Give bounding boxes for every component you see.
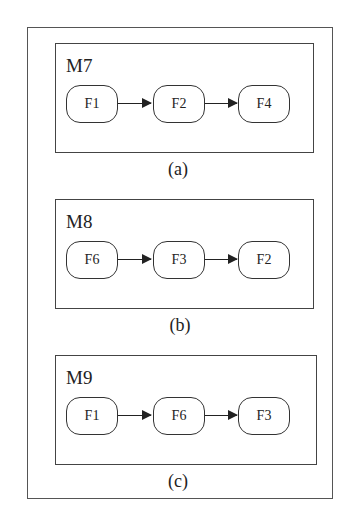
node-f6: F6: [153, 397, 205, 435]
arrow-icon: [205, 415, 237, 416]
arrow-icon: [118, 415, 151, 416]
panel-title: M9: [66, 368, 92, 388]
caption-c: (c): [158, 471, 198, 491]
caption-b: (b): [160, 315, 200, 335]
arrow-icon: [205, 259, 237, 260]
node-f1: F1: [66, 397, 118, 435]
arrow-icon: [118, 103, 151, 104]
panel-title: M7: [66, 56, 92, 76]
caption-a: (a): [158, 159, 198, 179]
node-f1: F1: [66, 85, 118, 123]
node-f3: F3: [238, 397, 290, 435]
node-f3: F3: [153, 241, 205, 279]
arrow-icon: [205, 103, 237, 104]
arrow-icon: [118, 259, 151, 260]
panel-m7: M7 F1 F2 F4: [55, 43, 314, 153]
panel-m8: M8 F6 F3 F2: [55, 199, 314, 309]
node-f4: F4: [238, 85, 290, 123]
panel-title: M8: [66, 212, 92, 232]
panel-m9: M9 F1 F6 F3: [55, 355, 317, 465]
node-f2: F2: [153, 85, 205, 123]
node-f2: F2: [238, 241, 290, 279]
node-f6: F6: [66, 241, 118, 279]
